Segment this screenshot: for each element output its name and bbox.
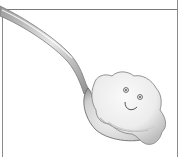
spoon-handle [0, 6, 90, 94]
spoon-blob-drawing [0, 0, 180, 157]
illustration [0, 0, 180, 157]
